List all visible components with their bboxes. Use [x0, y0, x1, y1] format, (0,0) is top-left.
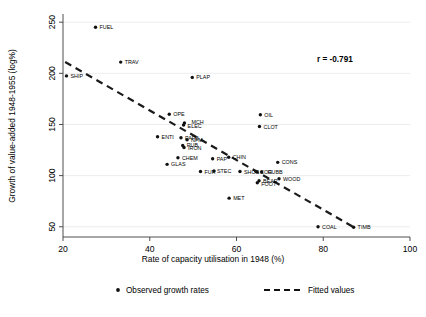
- point-marker: [316, 225, 319, 228]
- legend-label-fitted: Fitted values: [308, 286, 354, 295]
- point-marker: [176, 156, 179, 159]
- y-tick-label-4: 250: [47, 15, 57, 30]
- point-marker: [276, 161, 279, 164]
- point-label: SHIP: [70, 73, 83, 79]
- point-label: STEC: [217, 168, 231, 174]
- capacity-utilisation-scatter-plot: 20406080100 50100150200250 FUELTRAVSHIPP…: [0, 0, 426, 317]
- point-marker: [179, 136, 182, 139]
- y-tick-label-2: 150: [47, 117, 57, 132]
- point-marker: [259, 113, 262, 116]
- point-marker: [260, 170, 263, 173]
- x-tick-label-2: 60: [232, 244, 242, 254]
- point-marker: [238, 170, 241, 173]
- point-label: CLOT: [263, 124, 278, 130]
- point-label: PAP: [217, 156, 228, 162]
- point-marker: [65, 74, 68, 77]
- correlation-annotation: r = -0.791: [317, 55, 353, 64]
- point-label: FUEL: [100, 24, 114, 30]
- point-marker: [254, 170, 257, 173]
- point-label: IRON: [188, 145, 202, 151]
- point-label: RUBB: [268, 169, 283, 175]
- point-label: FOOT: [261, 181, 277, 187]
- point-marker: [182, 146, 185, 149]
- point-marker: [94, 26, 97, 29]
- point-marker: [258, 125, 261, 128]
- point-label: TRAV: [125, 59, 139, 65]
- point-label: PLAP: [196, 74, 210, 80]
- x-tick-label-0: 20: [58, 244, 68, 254]
- point-label: TIMB: [358, 224, 371, 230]
- point-marker: [277, 177, 280, 180]
- point-label: OIL: [264, 112, 273, 118]
- point-marker: [211, 157, 214, 160]
- point-marker: [212, 169, 215, 172]
- x-tick-label-3: 80: [318, 244, 328, 254]
- point-label: GLAS: [171, 161, 186, 167]
- point-marker: [168, 113, 171, 116]
- point-marker: [182, 123, 185, 126]
- point-marker: [165, 163, 168, 166]
- point-marker: [191, 76, 194, 79]
- y-tick-label-0: 50: [47, 222, 57, 232]
- point-marker: [185, 138, 188, 141]
- point-marker: [352, 226, 355, 229]
- y-tick-label-1: 100: [47, 168, 57, 183]
- x-axis-title: Rate of capacity utilisation in 1948 (%): [142, 254, 285, 264]
- point-label: CHIN: [233, 154, 246, 160]
- point-label: ELEC: [188, 123, 202, 129]
- x-tick-label-4: 100: [403, 244, 418, 254]
- point-marker: [227, 196, 230, 199]
- point-label: CONS: [282, 159, 298, 165]
- y-axis-title: Growth of value-added 1948-1955 (log%): [7, 49, 17, 203]
- point-label: ENTI: [162, 134, 174, 140]
- point-marker: [156, 135, 159, 138]
- point-marker: [199, 170, 202, 173]
- x-tick-label-1: 40: [145, 244, 155, 254]
- point-label: MET: [233, 195, 245, 201]
- point-label: WOOD: [283, 176, 300, 182]
- point-label: COAL: [322, 224, 337, 230]
- legend-label-observed: Observed growth rates: [126, 286, 209, 295]
- scatter-chart-figure: 20406080100 50100150200250 FUELTRAVSHIPP…: [0, 0, 426, 317]
- point-marker: [227, 156, 230, 159]
- point-marker: [256, 181, 259, 184]
- legend-dot-icon: [116, 288, 120, 292]
- point-label: OPE: [173, 111, 185, 117]
- y-tick-label-3: 200: [47, 66, 57, 81]
- point-label: CHEM: [182, 155, 198, 161]
- point-marker: [119, 60, 122, 63]
